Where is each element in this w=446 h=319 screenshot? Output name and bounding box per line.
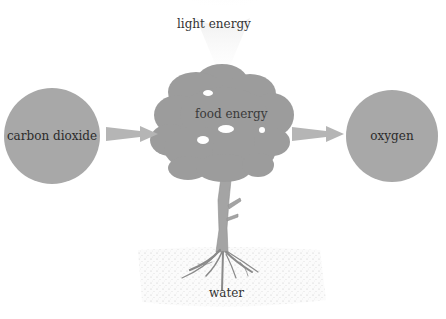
photosynthesis-diagram: carbon dioxide oxygen light energy food … [0, 0, 446, 319]
carbon-dioxide-circle: carbon dioxide [4, 88, 100, 184]
oxygen-label: oxygen [370, 129, 413, 143]
carbon-dioxide-label: carbon dioxide [7, 129, 97, 143]
food-energy-label: food energy [195, 107, 268, 121]
oxygen-circle: oxygen [346, 90, 438, 182]
tree-trunk-icon [216, 170, 241, 252]
tree-canopy-icon [150, 64, 294, 182]
arrow-output-icon [292, 126, 344, 142]
light-energy-label: light energy [177, 17, 251, 31]
water-label: water [209, 286, 244, 300]
light-beam-icon [181, 0, 265, 66]
